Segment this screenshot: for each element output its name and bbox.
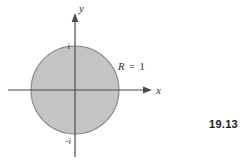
x-axis-arrowhead: [143, 87, 152, 94]
radius-label-equals: =: [129, 61, 135, 72]
y-axis-arrowhead: [72, 13, 79, 22]
radius-label: R = 1: [117, 61, 145, 72]
x-axis-label: x: [155, 84, 161, 96]
tick-label-negative-i: -i: [66, 136, 72, 146]
radius-label-value: 1: [140, 61, 145, 72]
y-axis-label: y: [78, 2, 84, 14]
figure-number: 19.13: [209, 118, 238, 130]
radius-label-symbol: R: [117, 61, 125, 72]
complex-plane-diagram: y x i -i R = 1: [0, 0, 247, 165]
figure-container: y x i -i R = 1 19.13: [0, 0, 247, 165]
